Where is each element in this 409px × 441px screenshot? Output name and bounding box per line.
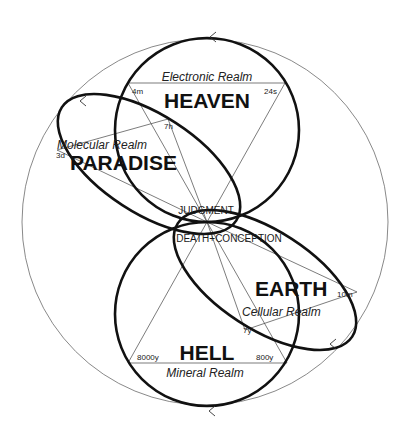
paradise-time-right: 7h bbox=[164, 122, 173, 131]
hell-time-left: 8000y bbox=[137, 353, 159, 362]
heaven-realm-label: Electronic Realm bbox=[162, 70, 253, 84]
judgment-label: JUDGMENT bbox=[178, 205, 234, 216]
hell-realm-label: Mineral Realm bbox=[166, 366, 243, 380]
paradise-label: PARADISE bbox=[70, 151, 177, 174]
cosmic-cycle-diagram: Electronic Realm HEAVEN 4m 24s Molecular… bbox=[0, 0, 409, 441]
earth-time-right: 10m bbox=[337, 290, 353, 299]
death-conception-label: DEATH+CONCEPTION bbox=[176, 233, 282, 244]
hell-label: HELL bbox=[180, 341, 235, 364]
earth-realm-label: Cellular Realm bbox=[242, 305, 321, 319]
arrow-bottom-icon bbox=[209, 406, 215, 416]
heaven-time-left: 4m bbox=[132, 87, 143, 96]
arrow-paradise-icon bbox=[80, 96, 86, 106]
heaven-circle bbox=[115, 38, 299, 222]
earth-label: EARTH bbox=[255, 277, 327, 300]
heaven-time-right: 24s bbox=[264, 87, 277, 96]
paradise-realm-label: Molecular Realm bbox=[57, 138, 147, 152]
heaven-label: HEAVEN bbox=[164, 89, 250, 112]
paradise-time-left: 3d bbox=[56, 151, 65, 160]
hell-time-right: 800y bbox=[256, 353, 273, 362]
earth-time-left: 7y bbox=[243, 326, 251, 335]
